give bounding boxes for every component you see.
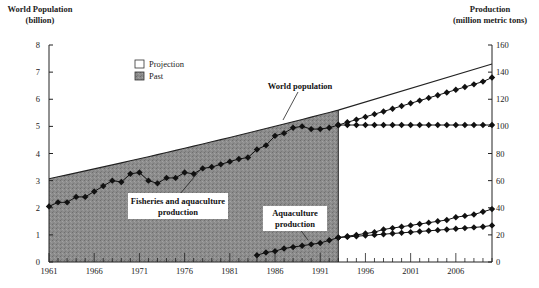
- diamond-marker-icon: [480, 122, 486, 128]
- annotation-fisheries-line1: Fisheries and aquaculture: [131, 196, 226, 206]
- x-tick-label: 1961: [41, 266, 58, 276]
- diamond-marker-icon: [398, 122, 404, 128]
- right-tick-label: 100: [496, 121, 509, 131]
- left-tick-label: 8: [36, 40, 40, 50]
- diamond-marker-icon: [426, 228, 432, 234]
- diamond-marker-icon: [435, 227, 441, 233]
- x-tick-label: 1971: [131, 266, 148, 276]
- x-tick-label: 1981: [221, 266, 238, 276]
- x-tick-label: 2006: [447, 266, 464, 276]
- diamond-marker-icon: [471, 122, 477, 128]
- diamond-marker-icon: [462, 213, 468, 219]
- left-tick-label: 3: [36, 176, 40, 186]
- right-axis-title: Production: [470, 4, 511, 14]
- x-tick-label: 2001: [402, 266, 419, 276]
- diamond-marker-icon: [480, 209, 486, 215]
- diamond-marker-icon: [444, 89, 450, 95]
- diamond-marker-icon: [444, 226, 450, 232]
- diamond-marker-icon: [471, 211, 477, 217]
- diamond-marker-icon: [380, 108, 386, 114]
- diamond-marker-icon: [416, 97, 422, 103]
- diamond-marker-icon: [489, 222, 495, 228]
- diamond-marker-icon: [489, 74, 495, 80]
- diamond-marker-icon: [389, 230, 395, 236]
- left-axis-title: World Population: [8, 4, 73, 14]
- diamond-marker-icon: [362, 114, 368, 120]
- past-region: [49, 110, 338, 262]
- right-tick-label: 60: [496, 176, 505, 186]
- diamond-marker-icon: [480, 78, 486, 84]
- right-tick-label: 40: [496, 203, 505, 213]
- diamond-marker-icon: [480, 224, 486, 230]
- left-tick-label: 0: [36, 257, 40, 267]
- x-tick-label: 1986: [267, 266, 284, 276]
- diamond-marker-icon: [489, 122, 495, 128]
- diamond-marker-icon: [398, 103, 404, 109]
- production-series-line: [338, 78, 492, 125]
- left-tick-label: 2: [36, 203, 40, 213]
- past-shaded-area: [49, 110, 338, 262]
- diamond-marker-icon: [398, 230, 404, 236]
- diamond-marker-icon: [371, 111, 377, 117]
- annotation-aquaculture-line2: production: [275, 219, 315, 229]
- left-tick-label: 7: [36, 67, 40, 77]
- diamond-marker-icon: [407, 100, 413, 106]
- chart: 0123456780204060801001201401601961196619…: [0, 0, 539, 288]
- diamond-marker-icon: [426, 95, 432, 101]
- legend-label-projection: Projection: [149, 59, 185, 69]
- legend-swatch-projection: [135, 60, 144, 68]
- right-tick-label: 80: [496, 149, 505, 159]
- diamond-marker-icon: [416, 122, 422, 128]
- legend-swatch-past: [135, 72, 144, 80]
- diamond-marker-icon: [416, 228, 422, 234]
- annotation-fisheries-line2: production: [158, 207, 198, 217]
- annotation-world-population-text: World population: [268, 81, 333, 91]
- x-tick-label: 1966: [86, 266, 103, 276]
- diamond-marker-icon: [453, 87, 459, 93]
- diamond-marker-icon: [435, 218, 441, 224]
- left-tick-label: 5: [36, 121, 40, 131]
- production-series-line: [338, 225, 492, 237]
- diamond-marker-icon: [407, 222, 413, 228]
- left-tick-label: 1: [36, 230, 40, 240]
- diamond-marker-icon: [353, 122, 359, 128]
- diamond-marker-icon: [371, 122, 377, 128]
- right-tick-label: 160: [496, 40, 509, 50]
- diamond-marker-icon: [462, 122, 468, 128]
- left-tick-label: 4: [36, 149, 41, 159]
- diamond-marker-icon: [344, 234, 350, 240]
- diamond-marker-icon: [471, 224, 477, 230]
- right-tick-label: 20: [496, 230, 505, 240]
- diamond-marker-icon: [380, 122, 386, 128]
- production-series-line: [338, 209, 492, 237]
- diamond-marker-icon: [444, 122, 450, 128]
- diamond-marker-icon: [489, 206, 495, 212]
- diamond-marker-icon: [407, 229, 413, 235]
- annotation-aquaculture-line1: Aquaculture: [272, 208, 318, 218]
- x-tick-label: 1976: [176, 266, 193, 276]
- diamond-marker-icon: [453, 226, 459, 232]
- diamond-marker-icon: [426, 122, 432, 128]
- diamond-marker-icon: [435, 92, 441, 98]
- right-axis-unit: (million metric tons): [453, 15, 527, 25]
- diamond-marker-icon: [453, 122, 459, 128]
- diamond-marker-icon: [462, 84, 468, 90]
- right-tick-label: 140: [496, 67, 509, 77]
- diamond-marker-icon: [389, 122, 395, 128]
- x-tick-label: 1991: [312, 266, 329, 276]
- legend-label-past: Past: [149, 71, 164, 81]
- x-tick-label: 1996: [357, 266, 374, 276]
- diamond-marker-icon: [380, 231, 386, 237]
- legend: Projection Past: [135, 59, 185, 81]
- diamond-marker-icon: [416, 221, 422, 227]
- left-tick-label: 6: [36, 94, 40, 104]
- diamond-marker-icon: [444, 217, 450, 223]
- right-tick-label: 120: [496, 94, 509, 104]
- diamond-marker-icon: [398, 224, 404, 230]
- diamond-marker-icon: [407, 122, 413, 128]
- diamond-marker-icon: [426, 219, 432, 225]
- diamond-marker-icon: [362, 122, 368, 128]
- diamond-marker-icon: [462, 225, 468, 231]
- diamond-marker-icon: [435, 122, 441, 128]
- diamond-marker-icon: [471, 81, 477, 87]
